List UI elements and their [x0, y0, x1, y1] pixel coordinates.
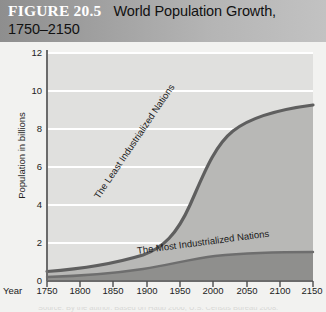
x-tick-label: 2150 — [301, 285, 322, 296]
x-tick-label: 2000 — [202, 285, 223, 296]
figure-number: FIGURE 20.5 — [8, 2, 101, 20]
x-tick-label: 2050 — [236, 285, 257, 296]
x-tick-label: 1800 — [69, 285, 90, 296]
figure-panel: FIGURE 20.5 World Population Growth, 175… — [0, 0, 326, 312]
x-tick-label: 2100 — [269, 285, 290, 296]
source-note-strip: Source: By the author. Based on Haub 200… — [0, 307, 326, 312]
figure-title-line-1: World Population Growth, — [113, 3, 276, 19]
figure-header: FIGURE 20.5 World Population Growth, 175… — [0, 0, 326, 42]
source-note: Source: By the author. Based on Haub 200… — [38, 307, 278, 312]
x-tick-label: 1950 — [169, 285, 190, 296]
x-axis-ticks: 1750 1800 1850 1900 1950 2000 2050 2100 … — [0, 285, 326, 305]
figure-title-line-2: 1750–2150 — [8, 21, 326, 37]
plot-svg — [0, 42, 326, 312]
x-tick-label: 1900 — [136, 285, 157, 296]
figure-header-line-1: FIGURE 20.5 World Population Growth, — [8, 2, 326, 20]
x-tick-label: 1850 — [102, 285, 123, 296]
chart-area: Population in billions 12 10 8 6 4 2 0 — [0, 42, 326, 312]
x-tick-label: 1750 — [36, 285, 57, 296]
